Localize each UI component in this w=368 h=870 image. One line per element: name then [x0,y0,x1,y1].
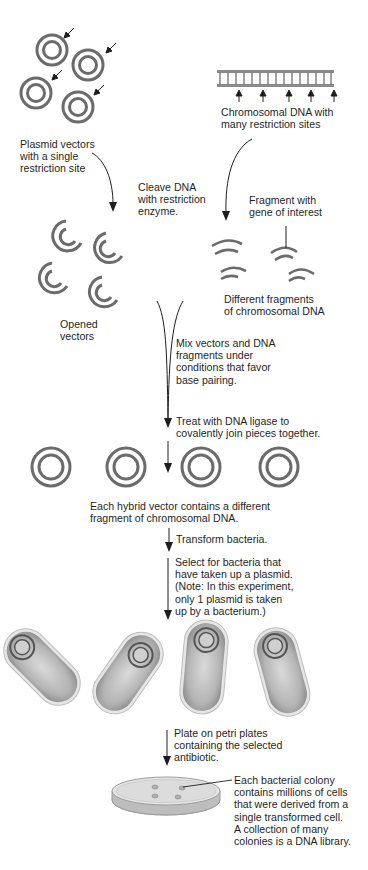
petri-dish-icon [112,777,220,815]
label-different-fragments: Different fragments of chromosomal DNA [224,293,325,317]
plasmid-icon [63,92,93,122]
label-mix-step: Mix vectors and DNA fragments under cond… [176,337,276,386]
opened-vector-icon [95,233,122,263]
bacterium-icon [84,624,172,723]
hybrid-vector-icon [260,448,298,486]
restriction-site-arrows [236,90,337,102]
label-opened-vectors: Opened vectors [60,318,98,342]
hybrid-vectors [32,448,298,486]
plasmid-icon [73,50,103,80]
fragment-icon [221,268,246,279]
plasmid-vectors [21,35,103,122]
bacterium-icon [249,623,315,721]
label-chromosomal-dna: Chromosomal DNA with many restriction si… [221,106,333,130]
hybrid-vector-icon [32,448,70,486]
fragment-icon [289,270,314,282]
bacteria [0,618,315,722]
opened-vector-icon [39,263,67,293]
dna-library-diagram: Plasmid vectors with a single restrictio… [0,0,368,870]
label-hybrid-vectors: Each hybrid vector contains a different … [90,500,270,524]
colony-icon [175,795,181,799]
opened-vector-icon [53,221,81,251]
label-plate-step: Plate on petri plates containing the sel… [174,727,282,764]
hybrid-vector-icon [182,448,220,486]
plasmid-icon [21,78,51,108]
chromosomal-dna-icon [217,70,337,102]
bacterium-icon [0,620,89,715]
colony-icon [152,794,158,798]
label-cleave-step: Cleave DNA with restriction enzyme. [138,181,206,218]
label-transform-step: Transform bacteria. [176,533,267,545]
plasmid-icon [37,35,67,65]
bacterium-icon [178,618,230,715]
fragment-icon [212,240,242,254]
label-colony-library: Each bacterial colony contains millions … [234,774,351,847]
label-plasmid-vectors: Plasmid vectors with a single restrictio… [20,138,95,175]
opened-vectors [39,221,122,307]
opened-vector-icon [89,277,117,307]
arrowhead-icon [109,202,117,212]
arrowhead-icon [222,211,230,221]
colony-icon [152,785,158,789]
label-ligase-step: Treat with DNA ligase to covalently join… [176,415,320,439]
hybrid-vector-icon [107,448,145,486]
chromosomal-fragments [212,240,314,281]
label-fragment-gene: Fragment with gene of interest [249,194,322,218]
fragment-icon [271,248,297,260]
label-select-step: Select for bacteria that have taken up a… [175,556,293,617]
